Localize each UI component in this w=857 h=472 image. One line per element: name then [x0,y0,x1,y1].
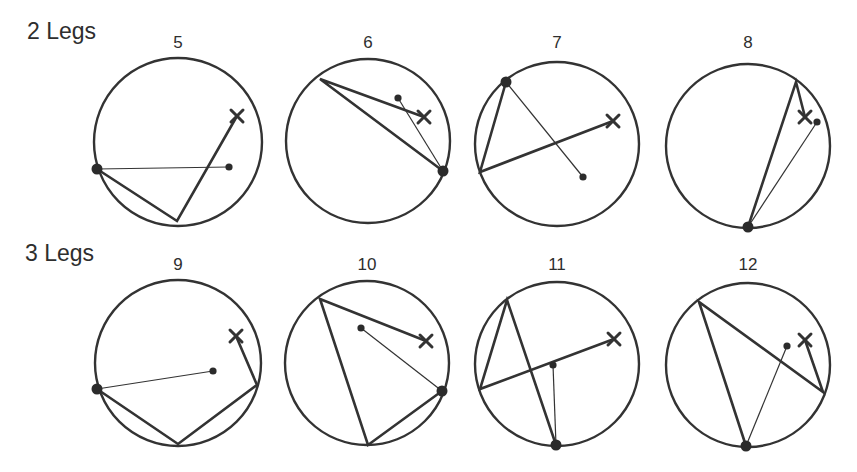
x-mark-icon [420,335,432,347]
boundary-circle [666,283,830,447]
diagram-5 [92,58,263,226]
x-mark-icon [231,110,243,122]
boundary-circle [94,58,262,226]
direct-line [97,167,229,169]
large-dot-icon [438,166,449,177]
x-mark-icon [799,334,811,346]
x-mark-icon [418,111,430,123]
leg-path [320,79,443,171]
leg-path [480,82,613,172]
small-dot-icon [225,163,232,170]
large-dot-icon [92,164,103,175]
direct-line [506,82,583,177]
large-dot-icon [741,441,752,452]
x-mark-icon [230,330,242,342]
boundary-circle [475,282,639,446]
small-dot-icon [813,118,820,125]
direct-line [553,365,556,445]
small-dot-icon [209,367,216,374]
large-dot-icon [743,222,754,233]
large-dot-icon [92,384,103,395]
small-dot-icon [549,361,556,368]
small-dot-icon [394,94,401,101]
boundary-circle [286,59,450,223]
diagram-10 [285,281,449,445]
leg-path [97,336,257,444]
direct-line [97,371,213,389]
diagram-12 [666,283,830,452]
small-dot-icon [357,324,364,331]
diagram-11 [475,282,639,451]
diagram-9 [92,280,262,446]
large-dot-icon [501,77,512,88]
x-mark-icon [607,115,619,127]
boundary-circle [666,64,830,228]
leg-path [748,82,805,227]
diagram-7 [475,62,639,226]
x-mark-icon [608,333,620,345]
large-dot-icon [551,440,562,451]
small-dot-icon [579,173,586,180]
large-dot-icon [437,386,448,397]
diagram-6 [286,59,450,223]
small-dot-icon [783,342,790,349]
diagram-canvas [0,0,857,472]
boundary-circle [285,281,449,445]
direct-line [748,122,817,227]
diagram-8 [666,64,830,233]
boundary-circle [95,280,261,446]
